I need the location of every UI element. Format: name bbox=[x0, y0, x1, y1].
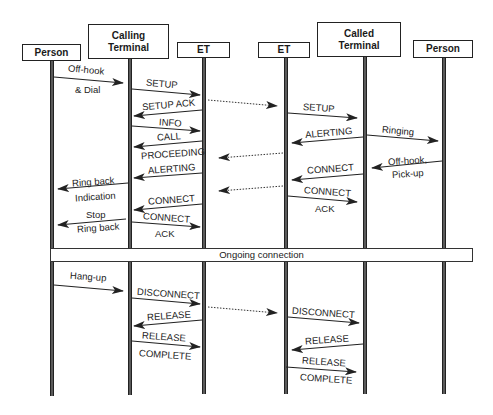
msg-connect-ack-left-2: ACK bbox=[155, 228, 175, 239]
msg-setup-right: SETUP bbox=[303, 101, 335, 114]
msg-connect-ack-right-2: ACK bbox=[315, 203, 335, 214]
ongoing-connection-label: Ongoing connection bbox=[219, 249, 304, 260]
msg-offhook-dial-2: & Dial bbox=[75, 84, 100, 95]
msg-stop-ringback-1: Stop bbox=[86, 209, 106, 220]
msg-call-proceeding-1: CALL bbox=[157, 130, 181, 143]
msg-offhook-pickup-2: Pick-up bbox=[392, 167, 424, 180]
ongoing-connection-bar: Ongoing connection bbox=[50, 248, 473, 262]
msg-info: INFO bbox=[159, 116, 182, 129]
